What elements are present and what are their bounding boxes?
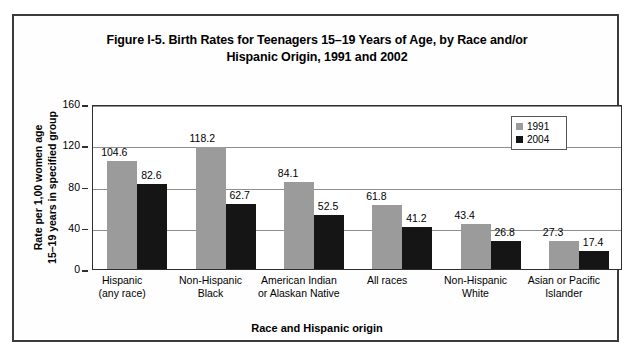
gridline [93,106,621,107]
bar-2004 [402,227,432,269]
bar-group: 104.682.6 [107,106,167,269]
bar-1991 [284,182,314,269]
y-tick-mark [82,188,88,190]
y-tick-label: 160 [62,98,80,110]
y-tick-label: 80 [68,181,80,193]
y-tick-label: 120 [62,139,80,151]
bar-value-label: 118.2 [190,132,216,144]
figure-title: Figure I-5. Birth Rates for Teenagers 15… [28,32,606,66]
bar-value-label: 82.6 [141,169,161,181]
gridline [93,230,621,231]
legend-swatch-icon [516,123,523,130]
y-axis-ticks: 04080120160 [58,105,88,270]
bar-1991 [549,241,579,269]
bar-1991 [107,161,137,269]
y-tick-mark [82,105,88,107]
bar-value-label: 26.8 [495,226,515,238]
y-tick-label: 40 [68,222,80,234]
bar-value-label: 43.4 [455,209,475,221]
bar-1991 [196,147,226,269]
x-axis-title: Race and Hispanic origin [28,322,606,334]
bar-2004 [314,215,344,269]
y-axis-title: Rate per 1,00 women age 15–19 years in s… [28,105,62,270]
legend-item-2004: 2004 [516,133,562,146]
y-axis-title-line-2: 15–19 years in specified group [45,111,59,264]
y-tick-mark [82,229,88,231]
bar-1991 [461,224,491,269]
legend-item-1991: 1991 [516,120,562,133]
gridline [93,189,621,190]
bar-2004 [579,251,609,269]
bar-value-label: 61.8 [366,190,386,202]
figure-title-line-2: Hispanic Origin, 1991 and 2002 [28,49,606,66]
bar-2004 [137,184,167,269]
y-axis-title-line-1: Rate per 1,00 women age [31,111,45,264]
bar-group: 61.841.2 [372,106,432,269]
bar-group: 118.262.7 [196,106,256,269]
bar-2004 [226,204,256,269]
bar-value-label: 52.5 [318,200,338,212]
x-axis-category-line: Asian or Pacific [508,274,620,287]
bar-value-label: 84.1 [278,167,298,179]
y-tick-mark [82,146,88,148]
bar-2004 [491,241,521,269]
x-axis-category-line: Islander [508,287,620,300]
bar-value-label: 104.6 [101,146,127,158]
bar-group: 84.152.5 [284,106,344,269]
x-axis-category-label: Asian or PacificIslander [508,274,620,300]
legend-label: 2004 [527,133,549,146]
y-tick-mark [82,270,88,272]
legend-swatch-icon [516,136,523,143]
legend-label: 1991 [527,120,549,133]
legend: 1991 2004 [511,116,567,150]
figure-title-line-1: Figure I-5. Birth Rates for Teenagers 15… [28,32,606,49]
bar-value-label: 41.2 [406,212,426,224]
bar-value-label: 62.7 [230,189,250,201]
bar-1991 [372,205,402,269]
x-axis-category-line: or Alaskan Native [243,287,355,300]
bar-value-label: 27.3 [543,226,563,238]
bar-value-label: 17.4 [583,236,603,248]
figure-frame: Figure I-5. Birth Rates for Teenagers 15… [12,14,619,342]
